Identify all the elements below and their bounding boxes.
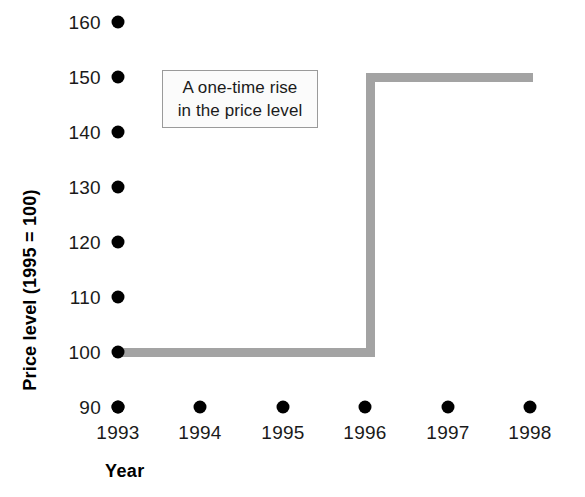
xtick-label-1997: 1997: [426, 423, 469, 442]
ytick-dot-120: [112, 236, 125, 249]
price-level-step-chart: 160 150 140 130 120 110 100 90 1993 1994…: [0, 0, 585, 497]
annotation-line-2: in the price level: [178, 99, 303, 122]
xtick-label-1993: 1993: [96, 423, 139, 442]
ytick-dot-160: [112, 16, 125, 29]
xtick-dot-1994: [194, 401, 207, 414]
ytick-label-130: 130: [68, 178, 101, 197]
xtick-dot-1996: [359, 401, 372, 414]
y-axis-title: Price level (1995 = 100): [20, 189, 41, 390]
step-segment-high-150: [366, 73, 533, 82]
xtick-label-1996: 1996: [343, 423, 386, 442]
annotation-callout: A one-time rise in the price level: [162, 70, 318, 128]
xtick-label-1994: 1994: [178, 423, 221, 442]
ytick-label-100: 100: [68, 343, 101, 362]
xtick-dot-1998: [524, 401, 537, 414]
annotation-line-1: A one-time rise: [183, 76, 298, 99]
ytick-label-90: 90: [79, 398, 101, 417]
ytick-dot-130: [112, 181, 125, 194]
xtick-dot-1993: [112, 401, 125, 414]
xtick-label-1995: 1995: [261, 423, 304, 442]
x-axis-title: Year: [105, 461, 145, 482]
ytick-dot-140: [112, 126, 125, 139]
step-segment-rise-1996: [366, 73, 375, 357]
xtick-dot-1995: [277, 401, 290, 414]
ytick-dot-110: [112, 291, 125, 304]
ytick-label-120: 120: [68, 233, 101, 252]
ytick-dot-100: [112, 346, 125, 359]
xtick-dot-1997: [442, 401, 455, 414]
ytick-label-110: 110: [70, 288, 101, 307]
ytick-label-150: 150: [68, 68, 101, 87]
xtick-label-1998: 1998: [508, 423, 551, 442]
ytick-dot-150: [112, 71, 125, 84]
step-segment-low-100: [118, 348, 374, 357]
ytick-label-160: 160: [68, 13, 101, 32]
plot-area: 160 150 140 130 120 110 100 90 1993 1994…: [0, 0, 585, 497]
ytick-label-140: 140: [68, 123, 101, 142]
